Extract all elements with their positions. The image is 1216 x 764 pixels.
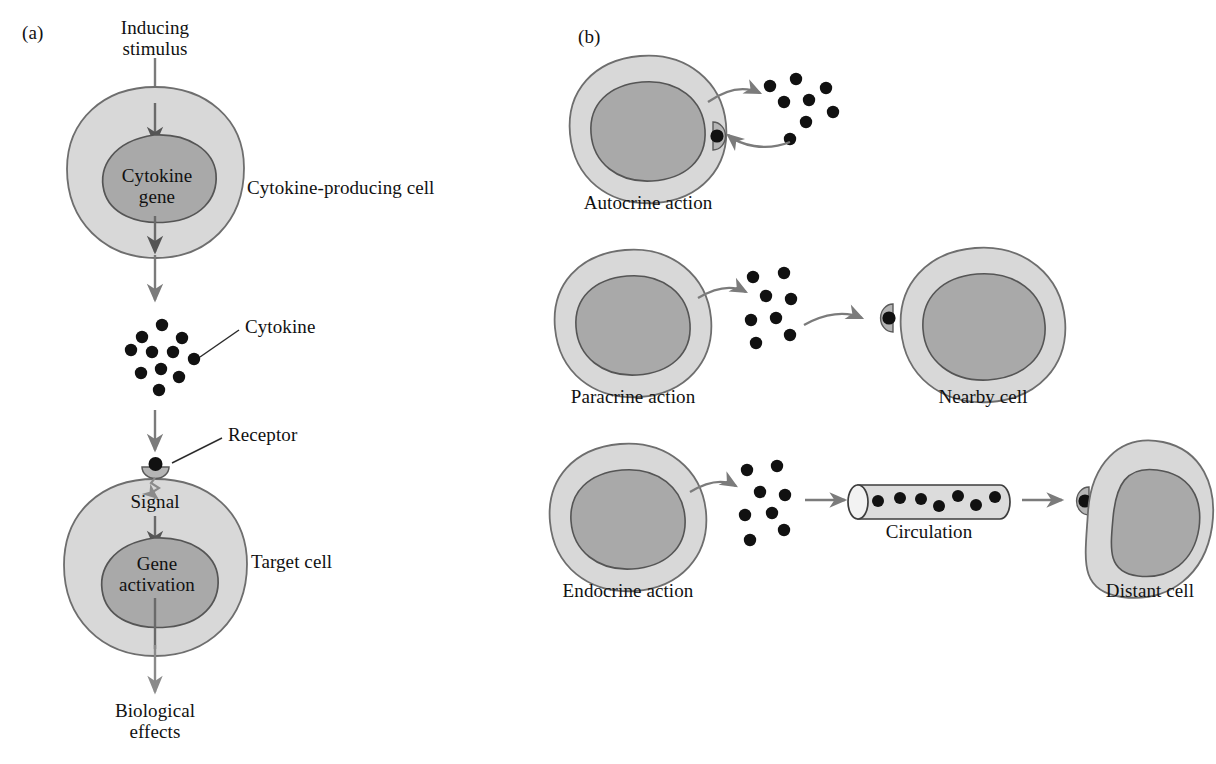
figure-root: (a) Inducing stimulus Cytokine gene Cyto… — [0, 0, 1216, 764]
label-signal: Signal — [130, 491, 179, 512]
receptor-bound-ligand-dot — [149, 457, 163, 471]
label-gene-activation: Gene activation — [119, 553, 195, 596]
autocrine-receptor-ligand-dot — [710, 129, 723, 142]
figure-canvas — [0, 0, 1216, 764]
circulation-vessel — [848, 485, 1010, 519]
label-nearby-cell: Nearby cell — [938, 386, 1027, 407]
leader-line-cytokine — [200, 330, 239, 357]
leader-line-receptor — [172, 438, 222, 463]
label-biological-effects: Biological effects — [115, 700, 195, 743]
endocrine-cell-nucleus — [571, 470, 685, 569]
label-target-cell: Target cell — [251, 551, 332, 572]
label-autocrine-action: Autocrine action — [584, 192, 713, 213]
panel-b-letter: (b) — [578, 26, 600, 47]
nearby-cell-nucleus — [923, 274, 1045, 380]
panel-a-graphics — [64, 58, 247, 692]
autocrine-dot-cluster — [764, 73, 839, 145]
nearby-cell-receptor-ligand-dot — [882, 311, 895, 324]
arrow-autocrine-return — [728, 135, 790, 147]
label-paracrine-action: Paracrine action — [571, 386, 696, 407]
paracrine-dot-cluster — [745, 267, 797, 349]
autocrine-cell-nucleus — [591, 82, 705, 181]
label-distant-cell: Distant cell — [1106, 580, 1194, 601]
cytokine-dot-cluster — [125, 319, 200, 396]
panel-b-endocrine-graphics — [550, 441, 1214, 598]
label-inducing-stimulus: Inducing stimulus — [121, 17, 189, 60]
label-cytokine: Cytokine — [245, 316, 315, 337]
paracrine-cell-nucleus — [576, 276, 690, 375]
arrow-paracrine-to-nearby-cell — [804, 314, 862, 325]
label-cytokine-producing-cell: Cytokine-producing cell — [247, 177, 435, 198]
label-endocrine-action: Endocrine action — [563, 580, 694, 601]
label-circulation: Circulation — [886, 521, 973, 542]
panel-a-letter: (a) — [22, 22, 43, 43]
panel-b-autocrine-graphics — [570, 56, 840, 204]
label-receptor: Receptor — [228, 424, 297, 445]
endocrine-dot-cluster — [739, 460, 791, 546]
label-cytokine-gene: Cytokine gene — [122, 165, 192, 208]
panel-b-paracrine-graphics — [555, 248, 1066, 403]
